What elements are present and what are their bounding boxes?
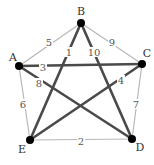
node-b: [77, 19, 85, 27]
edge-weight-b-e: 1: [66, 47, 72, 58]
edge-weight-b-c: 9: [109, 37, 115, 48]
node-c: [138, 60, 146, 68]
graph-canvas: 59726311048ABCDE: [0, 0, 154, 165]
node-e: [26, 136, 34, 144]
edge-weight-b-d: 10: [88, 47, 101, 58]
node-label-d: D: [136, 141, 145, 154]
node-label-c: C: [143, 47, 151, 60]
edge-weight-c-d: 7: [133, 99, 139, 110]
edge-weight-a-c: 3: [40, 62, 46, 73]
edge-a-c: [19, 64, 142, 66]
edge-weight-a-b: 5: [46, 37, 52, 48]
edge-weight-a-d: 8: [36, 78, 42, 89]
node-label-b: B: [77, 5, 85, 18]
node-label-a: A: [8, 51, 18, 64]
weighted-graph-diagram: 59726311048ABCDE: [0, 0, 154, 165]
edge-weight-d-e: 2: [78, 136, 84, 147]
edge-weight-c-e: 4: [118, 75, 124, 86]
node-label-e: E: [18, 143, 26, 156]
edge-weight-a-e: 6: [20, 99, 26, 110]
